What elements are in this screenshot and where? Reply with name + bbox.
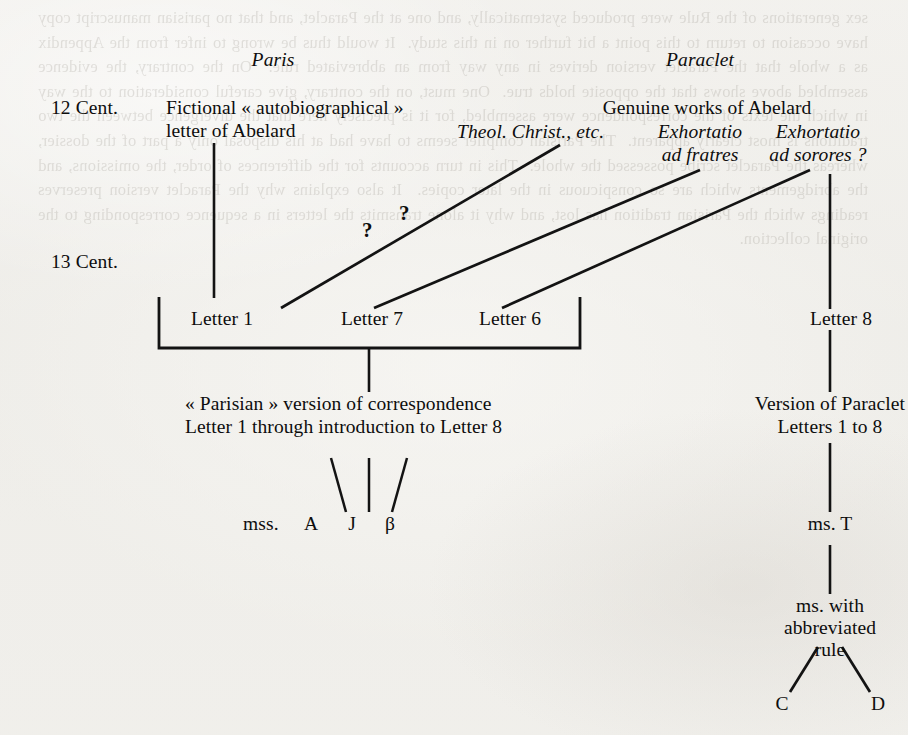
node-paraclet-version-line2: Letters 1 to 8 [778, 415, 883, 438]
node-ms-a: A [304, 512, 318, 535]
edge-parisian-to-ms-a [331, 458, 346, 512]
node-letter-6: Letter 6 [479, 307, 541, 330]
node-fictional-letter-line2: letter of Abelard [166, 119, 295, 142]
node-ms-c: C [775, 692, 788, 715]
node-letter-7: Letter 7 [341, 307, 403, 330]
node-ms-d: D [871, 692, 885, 715]
edge-theol-to-letter1 [281, 145, 560, 308]
node-ms-j: J [348, 512, 356, 535]
node-exhortatio-sorores-line1: Exhortatio [776, 120, 860, 143]
period-label-13-cent: 13 Cent. [51, 250, 118, 273]
node-parisian-version-line2: Letter 1 through introduction to Letter … [185, 415, 502, 438]
edge-exhortatio-sorores-to-letter6 [502, 170, 810, 308]
node-parisian-version-line1: « Parisian » version of correspondence [185, 392, 492, 415]
node-exhortatio-fratres-line2: ad fratres [662, 143, 739, 166]
node-exhortatio-fratres-line1: Exhortatio [658, 120, 742, 143]
node-abbreviated-rule-line1: ms. with [796, 594, 864, 617]
node-genuine-works: Genuine works of Abelard [603, 96, 812, 119]
period-label-12-cent: 12 Cent. [51, 96, 118, 119]
node-abbreviated-rule-line2: abbreviated [784, 616, 876, 639]
column-header-paris: Paris [252, 48, 295, 71]
node-paraclet-version-line1: Version of Paraclet [755, 392, 905, 415]
node-letter-8: Letter 8 [810, 307, 872, 330]
node-fictional-letter-line1: Fictional « autobiographical » [166, 96, 404, 119]
node-ms-beta: β [385, 512, 395, 535]
annotation-question-mark-left: ? [362, 218, 373, 243]
node-abbreviated-rule-line3: rule [815, 638, 846, 661]
node-theol-christ: Theol. Christ., etc. [457, 120, 604, 143]
node-letter-1: Letter 1 [191, 307, 253, 330]
edge-parisian-to-ms-beta [392, 458, 407, 512]
label-mss-prefix: mss. [243, 512, 279, 535]
annotation-question-mark-right: ? [399, 201, 410, 226]
column-header-paraclet: Paraclet [666, 48, 734, 71]
edge-abbreviated-rule-to-ms-d [842, 647, 870, 692]
node-ms-t: ms. T [808, 512, 853, 535]
node-exhortatio-sorores-line2: ad sorores ? [769, 143, 866, 166]
figure-page: sex generations of the Rule were produce… [0, 0, 908, 735]
edge-exhortatio-fratres-to-letter7 [374, 170, 700, 308]
